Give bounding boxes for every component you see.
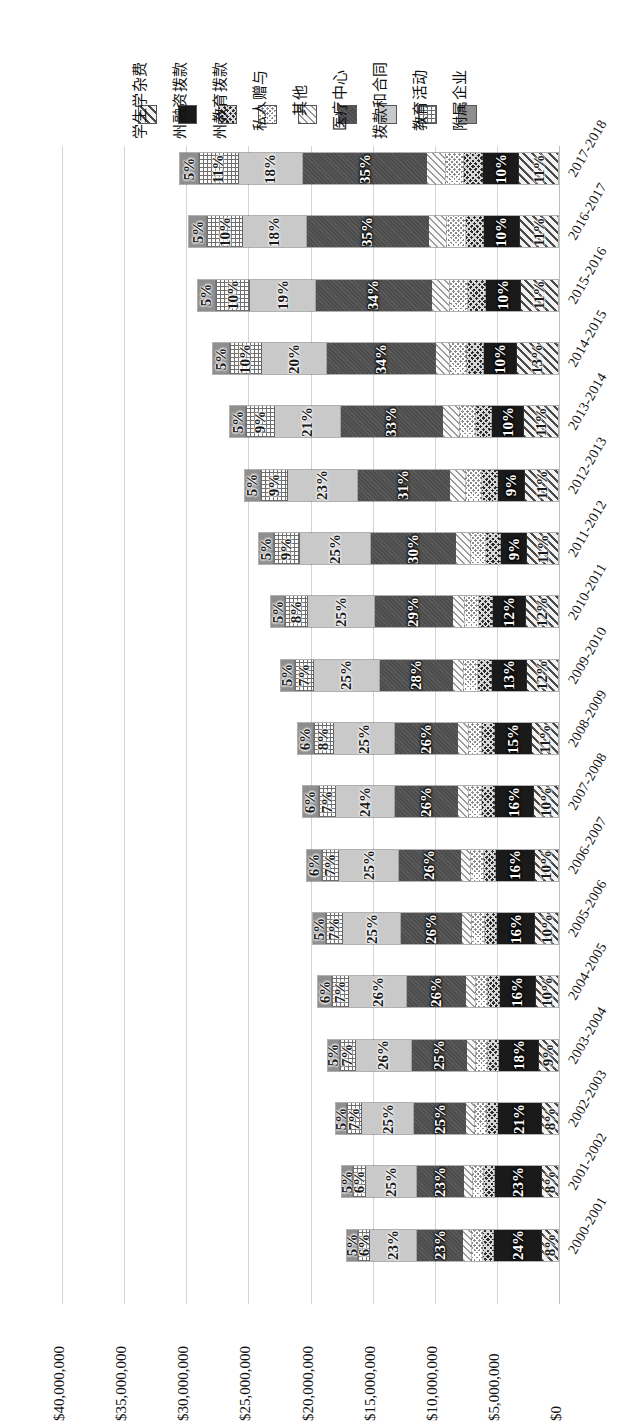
bar-segment[interactable] <box>472 1230 483 1261</box>
bar-segment[interactable]: 6% <box>358 1230 371 1261</box>
bar-segment[interactable]: 6% <box>318 976 332 1007</box>
bar-segment[interactable] <box>466 470 482 501</box>
bar-segment[interactable]: 25% <box>300 533 371 564</box>
stacked-bar[interactable]: 11%9%31%23%9%5% <box>244 469 559 502</box>
bar-segment[interactable]: 10% <box>483 153 519 184</box>
bar-segment[interactable]: 6% <box>353 1166 366 1197</box>
bar-segment[interactable] <box>485 913 497 944</box>
legend-item-0[interactable]: 学生学杂费 <box>128 0 168 140</box>
bar-segment[interactable]: 9% <box>498 470 526 501</box>
bar-segment[interactable]: 24% <box>494 1230 542 1261</box>
bar-segment[interactable]: 9% <box>539 1040 558 1071</box>
legend-item-5[interactable]: 医疗中心 <box>328 0 368 140</box>
bar-segment[interactable] <box>460 406 476 437</box>
bar-segment[interactable]: 10% <box>492 406 524 437</box>
bar-segment[interactable]: 33% <box>341 406 444 437</box>
bar-segment[interactable]: 8% <box>285 596 307 627</box>
bar-segment[interactable] <box>461 850 471 881</box>
bar-segment[interactable] <box>488 976 500 1007</box>
bar-segment[interactable]: 18% <box>243 216 306 247</box>
bar-segment[interactable]: 35% <box>303 153 427 184</box>
bar-segment[interactable] <box>465 596 479 627</box>
bar-segment[interactable]: 9% <box>501 533 527 564</box>
bar-segment[interactable]: 10% <box>484 343 517 374</box>
stacked-bar[interactable]: 10%16%26%25%7%5% <box>312 912 559 945</box>
bar-segment[interactable]: 7% <box>340 1040 356 1071</box>
bar-segment[interactable]: 5% <box>189 216 207 247</box>
stacked-bar[interactable]: 13%10%34%20%10%5% <box>212 342 559 375</box>
bar-segment[interactable] <box>466 976 476 1007</box>
bar-segment[interactable]: 5% <box>313 913 325 944</box>
bar-segment[interactable] <box>482 723 495 754</box>
bar-segment[interactable] <box>453 596 465 627</box>
stacked-bar[interactable]: 11%10%33%21%9%5% <box>229 405 559 438</box>
bar-segment[interactable] <box>464 1166 473 1197</box>
bar-segment[interactable]: 8% <box>542 1166 558 1197</box>
bar-segment[interactable]: 28% <box>380 660 453 691</box>
bar-segment[interactable]: 9% <box>274 533 300 564</box>
bar-segment[interactable]: 12% <box>493 596 526 627</box>
bar-segment[interactable]: 34% <box>316 280 432 311</box>
bar-segment[interactable]: 23% <box>495 1166 542 1197</box>
bar-segment[interactable]: 25% <box>343 913 401 944</box>
bar-segment[interactable]: 10% <box>216 280 251 311</box>
bar-segment[interactable]: 26% <box>395 786 458 817</box>
bar-segment[interactable]: 26% <box>356 1040 412 1071</box>
bar-segment[interactable]: 25% <box>362 1103 414 1134</box>
bar-segment[interactable]: 10% <box>486 280 521 311</box>
bar-segment[interactable]: 7% <box>295 660 314 691</box>
bar-segment[interactable] <box>432 280 450 311</box>
bar-segment[interactable] <box>443 406 459 437</box>
bar-segment[interactable]: 13% <box>492 660 527 691</box>
bar-segment[interactable] <box>446 153 465 184</box>
bar-segment[interactable]: 25% <box>308 596 375 627</box>
bar-segment[interactable]: 18% <box>239 153 303 184</box>
bar-segment[interactable] <box>427 153 446 184</box>
bar-segment[interactable]: 18% <box>499 1040 538 1071</box>
legend-item-2[interactable]: 州教育拨款 <box>208 0 248 140</box>
bar-segment[interactable] <box>462 913 472 944</box>
bar-segment[interactable] <box>484 850 497 881</box>
bar-segment[interactable]: 31% <box>358 470 451 501</box>
bar-segment[interactable]: 5% <box>245 470 261 501</box>
legend-item-7[interactable]: 教育活动 <box>408 0 448 140</box>
stacked-bar[interactable]: 12%13%28%25%7%5% <box>280 659 559 692</box>
bar-segment[interactable]: 23% <box>417 1230 463 1261</box>
bar-segment[interactable]: 5% <box>213 343 230 374</box>
stacked-bar[interactable]: 8%21%25%25%7%5% <box>335 1102 559 1135</box>
bar-segment[interactable]: 23% <box>417 1166 464 1197</box>
bar-segment[interactable] <box>478 660 492 691</box>
bar-segment[interactable]: 12% <box>527 660 558 691</box>
stacked-bar[interactable]: 10%16%26%24%7%6% <box>302 785 559 818</box>
bar-segment[interactable]: 16% <box>496 850 534 881</box>
bar-segment[interactable]: 15% <box>495 723 532 754</box>
bar-segment[interactable] <box>482 786 495 817</box>
bar-segment[interactable] <box>456 533 471 564</box>
bar-segment[interactable] <box>472 913 484 944</box>
bar-segment[interactable]: 16% <box>500 976 536 1007</box>
legend-item-3[interactable]: 私人赠与 <box>248 0 288 140</box>
bar-segment[interactable]: 25% <box>339 850 398 881</box>
bar-segment[interactable]: 7% <box>326 913 343 944</box>
bar-segment[interactable]: 25% <box>414 1103 466 1134</box>
bar-segment[interactable]: 8% <box>542 1230 558 1261</box>
stacked-bar[interactable]: 11%9%30%25%9%5% <box>258 532 559 565</box>
bar-segment[interactable]: 5% <box>347 1230 358 1261</box>
bar-segment[interactable] <box>450 343 467 374</box>
bar-segment[interactable]: 11% <box>521 280 558 311</box>
bar-segment[interactable]: 23% <box>370 1230 416 1261</box>
stacked-bar[interactable]: 8%23%23%25%6%5% <box>341 1165 559 1198</box>
bar-segment[interactable]: 16% <box>497 913 535 944</box>
bar-segment[interactable]: 11% <box>532 723 558 754</box>
bar-segment[interactable] <box>436 343 450 374</box>
bar-segment[interactable] <box>476 1040 488 1071</box>
stacked-bar[interactable]: 11%10%34%19%10%5% <box>197 279 559 312</box>
bar-segment[interactable]: 26% <box>399 850 461 881</box>
legend-item-6[interactable]: 拨款和合同 <box>368 0 408 140</box>
bar-segment[interactable] <box>463 1230 472 1261</box>
bar-segment[interactable] <box>466 216 484 247</box>
bar-segment[interactable] <box>450 470 466 501</box>
bar-segment[interactable] <box>464 153 483 184</box>
bar-segment[interactable] <box>471 533 486 564</box>
bar-segment[interactable]: 5% <box>336 1103 347 1134</box>
